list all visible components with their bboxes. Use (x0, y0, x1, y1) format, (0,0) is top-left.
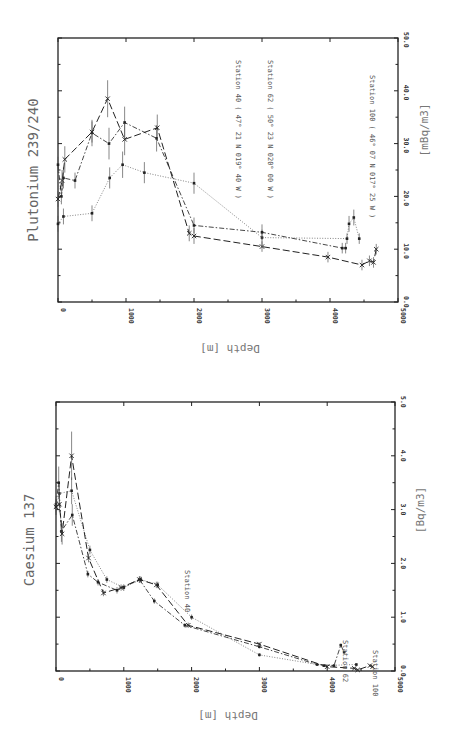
x-tick-label: 2000 (192, 677, 200, 693)
y-tick-label: 30.0 (402, 138, 410, 154)
series-line (56, 491, 356, 666)
y-tick-label: 20.0 (402, 190, 410, 206)
data-point (70, 489, 73, 492)
data-point (108, 177, 111, 180)
station-label: Station 62 ( 50° 23 N 020° 00 W ) (266, 60, 274, 199)
figure-root: 0100020003000400050000.010.020.030.040.0… (0, 0, 452, 741)
plot-frame (56, 402, 395, 671)
y-axis-label: [Bq/m3] (414, 487, 427, 533)
x-tick-label: 0 (57, 677, 65, 681)
y-axis-label: [mBq/m3] (418, 104, 431, 157)
x-axis-label: Depth [m] (200, 342, 260, 355)
data-point (341, 247, 344, 250)
y-tick-label: 40.0 (402, 85, 410, 101)
station-label: Station 100 ( 46° 07 N 017° 25 W ) (368, 75, 376, 218)
data-point (91, 212, 94, 215)
series-station-62: Station 62 ( 50° 23 N 020° 00 W ) (57, 60, 347, 253)
y-tick-label: 2.0 (399, 557, 407, 569)
chart-title: Plutonium 239/240 (25, 98, 41, 241)
data-point (348, 223, 351, 226)
y-tick-label: 5.0 (399, 396, 407, 408)
series-line (58, 123, 346, 249)
data-point (89, 549, 92, 552)
y-tick-label: 3.0 (399, 504, 407, 516)
data-point (258, 654, 261, 657)
x-tick-label: 3000 (260, 677, 268, 693)
data-point (261, 231, 264, 234)
x-tick-label: 4000 (331, 308, 339, 324)
data-point (62, 215, 65, 218)
data-point (57, 481, 60, 484)
x-tick-label: 1000 (127, 308, 135, 324)
data-point (153, 600, 156, 603)
station-label: Station 40 (183, 570, 191, 612)
data-point (344, 247, 347, 250)
data-point (60, 195, 63, 198)
station-label: Station 62 (341, 640, 349, 682)
data-point (108, 142, 111, 145)
data-point (116, 589, 119, 592)
series-station-100: Station 100 (54, 432, 379, 697)
data-point (355, 663, 358, 666)
data-point (258, 645, 261, 648)
data-point (106, 578, 109, 581)
series-station-40: Station 40 (55, 477, 358, 667)
data-point (333, 664, 336, 667)
data-point (57, 223, 60, 226)
plutonium-chart: 0100020003000400050000.010.020.030.040.0… (25, 32, 431, 355)
series-station-40: Station 40 ( 47° 21 N 019° 40 W ) (57, 60, 361, 246)
y-tick-label: 1.0 (399, 611, 407, 623)
data-point (57, 163, 60, 166)
station-label: Station 100 (371, 650, 379, 696)
x-tick-label: 5000 (396, 677, 404, 693)
x-tick-label: 3000 (263, 308, 271, 324)
x-tick-label: 2000 (195, 308, 203, 324)
y-tick-label: 0.0 (399, 665, 407, 677)
y-tick-label: 4.0 (399, 450, 407, 462)
data-point (74, 179, 77, 182)
data-point (71, 514, 74, 517)
y-tick-label: 0.0 (402, 296, 410, 308)
caesium-chart: 0100020003000400050000.01.02.03.04.05.0C… (21, 396, 427, 722)
station-label: Station 40 ( 47° 21 N 019° 40 W ) (234, 60, 242, 199)
data-point (121, 163, 124, 166)
data-point (123, 121, 126, 124)
x-axis-label: Depth [m] (198, 709, 258, 722)
data-point (184, 624, 187, 627)
data-point (143, 171, 146, 174)
series-line (56, 483, 344, 666)
x-tick-label: 0 (59, 308, 67, 312)
x-tick-label: 4000 (328, 677, 336, 693)
data-point (190, 616, 193, 619)
data-point (193, 182, 196, 185)
series-station-62: Station 62 (55, 467, 349, 683)
series-line (56, 456, 373, 670)
x-tick-label: 5000 (399, 308, 407, 324)
data-point (193, 224, 196, 227)
x-tick-label: 1000 (124, 677, 132, 693)
y-tick-label: 10.0 (402, 243, 410, 259)
data-point (353, 216, 356, 219)
series-line (58, 165, 359, 239)
data-point (87, 573, 90, 576)
chart-title: Caesium 137 (21, 494, 37, 587)
y-tick-label: 50.0 (402, 32, 410, 48)
series-station-100: Station 100 ( 46° 07 N 017° 25 W ) (56, 75, 379, 270)
data-point (346, 237, 349, 240)
series-line (58, 99, 376, 265)
data-point (358, 237, 361, 240)
plot-frame (58, 38, 398, 302)
